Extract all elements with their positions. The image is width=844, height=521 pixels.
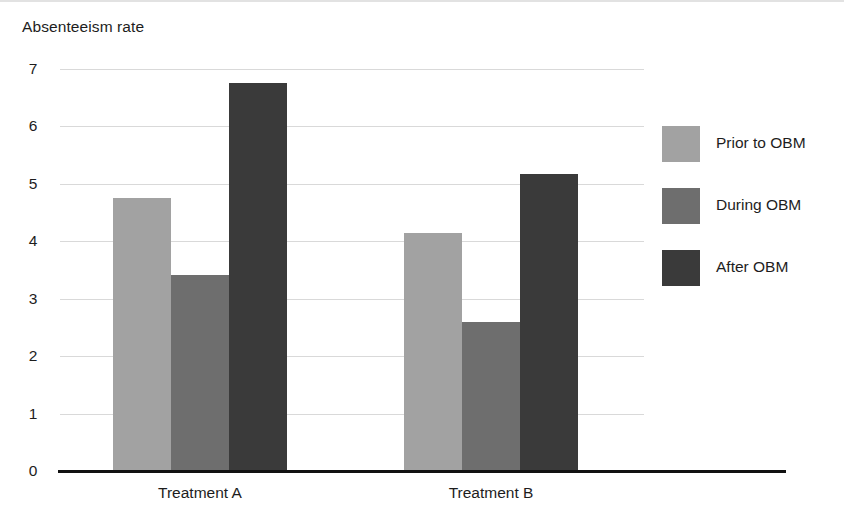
bar-treatment-b-prior-to-obm bbox=[404, 233, 462, 471]
bar-treatment-a-during-obm bbox=[171, 275, 229, 471]
legend-swatch-after-obm bbox=[662, 250, 700, 286]
y-tick-label-0: 0 bbox=[18, 462, 48, 480]
legend-swatch-during-obm bbox=[662, 188, 700, 224]
y-tick-label-2: 2 bbox=[18, 347, 48, 365]
legend-label: During OBM bbox=[716, 196, 801, 214]
category-label-treatment-b: Treatment B bbox=[449, 484, 534, 502]
scan-edge-line bbox=[0, 0, 844, 2]
y-tick-label-5: 5 bbox=[18, 175, 48, 193]
y-axis-title: Absenteeism rate bbox=[22, 18, 144, 36]
bar-treatment-a-after-obm bbox=[229, 83, 287, 471]
legend-label: After OBM bbox=[716, 258, 788, 276]
gridline-6 bbox=[60, 126, 644, 127]
y-tick-label-6: 6 bbox=[18, 117, 48, 135]
y-tick-label-7: 7 bbox=[18, 60, 48, 78]
bar-treatment-b-after-obm bbox=[520, 174, 578, 471]
legend-swatch-prior-to-obm bbox=[662, 126, 700, 162]
x-axis-baseline bbox=[58, 470, 786, 473]
y-tick-label-3: 3 bbox=[18, 290, 48, 308]
bar-treatment-a-prior-to-obm bbox=[113, 198, 171, 471]
absenteeism-rate-bar-chart: Absenteeism rate 01234567 Treatment ATre… bbox=[0, 0, 844, 521]
gridline-7 bbox=[60, 69, 644, 70]
bar-treatment-b-during-obm bbox=[462, 322, 520, 471]
category-label-treatment-a: Treatment A bbox=[158, 484, 242, 502]
legend-label: Prior to OBM bbox=[716, 134, 806, 152]
y-tick-label-1: 1 bbox=[18, 405, 48, 423]
y-tick-label-4: 4 bbox=[18, 232, 48, 250]
